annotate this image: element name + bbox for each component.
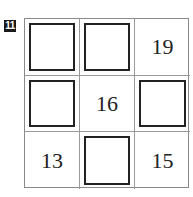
given-number: 15 [152, 148, 174, 174]
given-number: 13 [41, 148, 63, 174]
cell-r2-c3 [135, 76, 190, 132]
problem-number-badge: 11 [4, 20, 16, 32]
cell-r3-c2 [80, 132, 135, 189]
cell-r1-c1 [25, 19, 80, 76]
given-number: 16 [96, 91, 118, 117]
answer-box[interactable] [139, 80, 186, 127]
cell-r1-c2 [80, 19, 135, 76]
answer-box[interactable] [29, 80, 75, 127]
answer-box[interactable] [29, 23, 75, 71]
answer-box[interactable] [84, 136, 130, 185]
answer-box[interactable] [84, 23, 130, 71]
cell-r3-c3: 15 [135, 132, 190, 189]
cell-r2-c2: 16 [80, 76, 135, 132]
given-number: 19 [152, 34, 174, 60]
magic-square-grid: 19 16 13 15 [24, 18, 189, 188]
cell-r2-c1 [25, 76, 80, 132]
cell-r3-c1: 13 [25, 132, 80, 189]
cell-r1-c3: 19 [135, 19, 190, 76]
